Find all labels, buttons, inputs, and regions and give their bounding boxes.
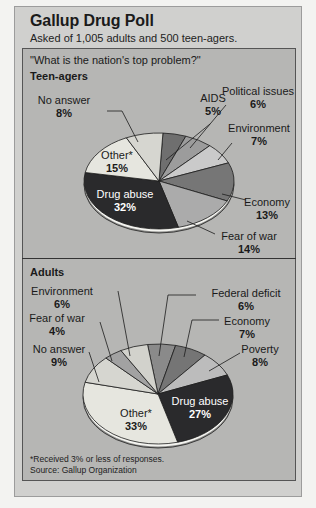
teen-label-fear-of-war-value: 14% [238,243,260,255]
teen-label-economy-value: 13% [256,209,278,221]
adult-label-federal-deficit-value: 6% [238,300,254,312]
adult-label-federal-deficit: Federal deficit [211,287,280,299]
adult-label-economy: Economy [224,315,270,327]
teen-label-political-issues: Political issues [222,85,295,97]
teen-label-fear-of-war: Fear of war [221,230,277,242]
teen-label-other: Other* [101,149,134,161]
teen-label-environment: Environment [228,122,290,134]
adult-pie-chart: Federal deficit6%Economy7%Poverty8%Drug … [29,285,280,448]
adult-label-fear-of-war: Fear of war [29,312,85,324]
adult-label-fear-of-war-value: 4% [49,325,65,337]
teen-label-no-answer: No answer [38,94,91,106]
adult-label-no-answer: No answer [33,343,86,355]
teen-label-no-answer-value: 8% [56,107,72,119]
adult-label-other-value: 33% [125,420,147,432]
teen-label-aids-value: 5% [205,105,221,117]
adult-label-other: Other* [120,407,153,419]
adult-label-poverty-value: 8% [252,356,268,368]
adult-label-environment-leader [118,291,130,356]
adult-label-poverty: Poverty [241,343,279,355]
adult-label-environment: Environment [31,285,93,297]
teen-label-political-issues-value: 6% [250,98,266,110]
adult-label-no-answer-value: 9% [51,356,67,368]
adult-label-environment-value: 6% [54,298,70,310]
teen-label-drug-abuse: Drug abuse [97,188,154,200]
pie-charts: AIDS5%Political issues6%Environment7%Eco… [0,0,316,508]
teen-label-environment-value: 7% [251,135,267,147]
adult-label-drug-abuse-value: 27% [189,408,211,420]
teen-label-other-value: 15% [106,162,128,174]
teen-label-drug-abuse-value: 32% [114,201,136,213]
teen-pie-chart: AIDS5%Political issues6%Environment7%Eco… [38,85,295,255]
adult-label-fear-of-war-leader [100,322,112,361]
teen-label-economy: Economy [244,196,290,208]
adult-label-economy-value: 7% [239,328,255,340]
adult-label-drug-abuse: Drug abuse [172,395,229,407]
teen-label-environment-leader [218,143,232,160]
